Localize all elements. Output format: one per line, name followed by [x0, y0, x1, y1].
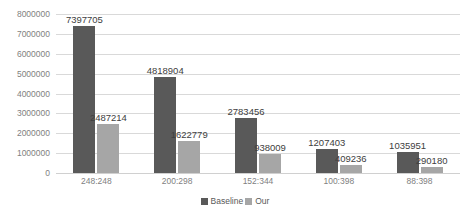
bar-group: 73977052487214	[73, 14, 119, 173]
bar-value-label: 290180	[416, 155, 448, 166]
bar-group: 2783456938009	[235, 14, 281, 173]
y-axis-tick-label: 3000000	[0, 109, 50, 118]
y-axis: 0100000020000003000000400000050000006000…	[0, 14, 50, 173]
x-axis-tick-label: 152:344	[218, 176, 299, 187]
y-axis-tick-label: 5000000	[0, 69, 50, 78]
legend-label: Baseline	[211, 196, 244, 206]
bar-value-label: 2487214	[90, 112, 127, 123]
bar-group: 1035951290180	[397, 14, 443, 173]
bar-baseline-200:298	[154, 77, 176, 173]
y-axis-tick-label: 0	[0, 169, 50, 178]
y-axis-tick-label: 8000000	[0, 10, 50, 19]
x-axis-tick-label: 100:398	[298, 176, 379, 187]
bar-chart: 0100000020000003000000400000050000006000…	[0, 0, 472, 218]
bar-value-label: 1622779	[171, 129, 208, 140]
y-axis-tick-label: 2000000	[0, 129, 50, 138]
y-axis-tick-label: 7000000	[0, 29, 50, 38]
x-axis: 248:248200:298152:344100:39888:398	[56, 176, 460, 190]
plot-area: 7397705248721448189041622779278345693800…	[56, 14, 460, 173]
bar-value-label: 1207403	[308, 137, 345, 148]
bar-value-label: 409236	[335, 153, 367, 164]
x-axis-tick-label: 200:298	[137, 176, 218, 187]
y-axis-tick-label: 6000000	[0, 49, 50, 58]
bar-our-248:248	[97, 124, 119, 173]
x-axis-tick-label: 88:398	[379, 176, 460, 187]
chart-legend: BaselineOur	[0, 196, 472, 206]
bar-value-label: 7397705	[66, 14, 103, 25]
bar-value-label: 4818904	[147, 65, 184, 76]
bar-our-152:344	[259, 154, 281, 173]
gridline	[56, 173, 460, 174]
legend-label: Our	[255, 196, 269, 206]
legend-item-our[interactable]: Our	[245, 196, 269, 206]
bar-baseline-248:248	[73, 26, 95, 173]
legend-swatch-icon	[245, 198, 252, 205]
x-axis-tick-label: 248:248	[56, 176, 137, 187]
bar-value-label: 938009	[254, 142, 286, 153]
bar-our-200:298	[178, 141, 200, 173]
y-axis-tick-label: 4000000	[0, 89, 50, 98]
bar-group: 48189041622779	[154, 14, 200, 173]
bar-value-label: 2783456	[228, 106, 265, 117]
legend-item-baseline[interactable]: Baseline	[201, 196, 244, 206]
bar-group: 1207403409236	[316, 14, 362, 173]
y-axis-tick-label: 1000000	[0, 149, 50, 158]
legend-swatch-icon	[201, 198, 208, 205]
bar-value-label: 1035951	[389, 140, 426, 151]
bar-our-100:398	[340, 165, 362, 173]
bar-our-88:398	[421, 167, 443, 173]
